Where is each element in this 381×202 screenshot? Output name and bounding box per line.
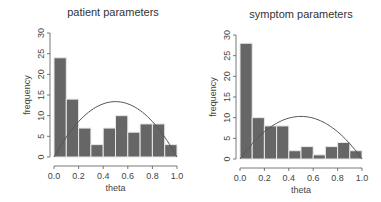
chart-title: symptom parameters [249,8,353,20]
histogram-bar [277,126,289,159]
histogram-bar [350,151,362,159]
x-tick-label: 0.0 [48,171,61,181]
y-axis: 051015202530frequency [22,28,50,160]
x-tick-label: 0.6 [122,171,135,181]
histogram-bar [252,118,264,159]
y-axis: 051015202530frequency [208,30,236,162]
histogram-bar [289,151,301,159]
y-tick-label: 0 [222,156,232,161]
histogram-bar [240,43,252,159]
y-tick-label: 15 [36,90,46,100]
bars [240,43,362,159]
y-tick-label: 25 [36,49,46,59]
histogram-bar [128,132,140,157]
y-tick-label: 5 [222,136,232,141]
y-tick-label: 0 [36,154,46,159]
x-tick-label: 0.6 [307,173,320,183]
histogram-bar [116,116,128,157]
x-tick-label: 1.0 [356,173,369,183]
x-tick-label: 0.0 [234,173,247,183]
x-axis: 0.00.20.40.60.81.0theta [234,168,369,195]
y-tick-label: 10 [222,113,232,123]
histogram-panel-1: patient parameters051015202530frequency0… [22,6,183,193]
x-axis-label: theta [105,183,125,193]
y-axis-label: frequency [22,75,32,115]
y-tick-label: 20 [36,69,46,79]
histogram-bar [338,142,350,159]
chart-title: patient parameters [67,6,159,18]
x-axis-label: theta [291,185,311,195]
histogram-bar [325,147,337,159]
histogram-bar [79,128,91,157]
y-tick-label: 30 [222,30,232,40]
y-tick-label: 10 [36,111,46,121]
x-axis: 0.00.20.40.60.81.0theta [48,166,184,193]
y-tick-label: 25 [222,51,232,61]
y-tick-label: 20 [222,71,232,81]
y-axis-label: frequency [208,77,218,117]
x-tick-label: 0.8 [146,171,159,181]
y-tick-label: 5 [36,134,46,139]
histogram-figure: patient parameters051015202530frequency0… [0,0,381,202]
histogram-bar [103,128,115,157]
x-tick-label: 0.4 [283,173,296,183]
y-tick-label: 30 [36,28,46,38]
y-tick-label: 15 [222,92,232,102]
histogram-panel-2: symptom parameters051015202530frequency0… [208,8,368,195]
x-tick-label: 0.4 [97,171,110,181]
x-tick-label: 0.2 [258,173,271,183]
histogram-bar [54,58,66,157]
histogram-bar [313,155,325,159]
x-tick-label: 0.8 [331,173,344,183]
x-tick-label: 1.0 [171,171,184,181]
histogram-bar [301,147,313,159]
x-tick-label: 0.2 [72,171,85,181]
histogram-bar [140,124,152,157]
bars [54,58,177,157]
histogram-bar [91,145,103,157]
